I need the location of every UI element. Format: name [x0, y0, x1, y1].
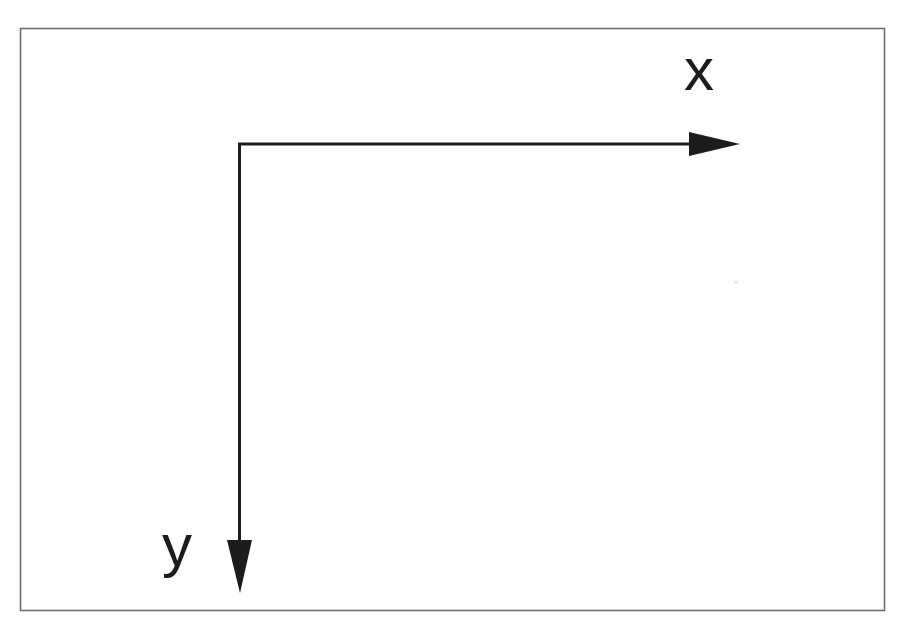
x-axis-label: x — [684, 36, 714, 103]
y-axis-label: y — [162, 512, 192, 579]
artifact-speck — [735, 281, 737, 283]
diagram-frame — [21, 29, 885, 611]
coordinate-axes-diagram: x y — [0, 0, 905, 623]
